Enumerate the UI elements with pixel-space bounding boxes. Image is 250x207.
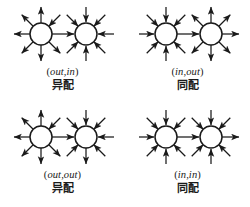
second-direction: in: [67, 66, 75, 77]
first-direction: out: [50, 66, 64, 77]
panel-out-out: (out,out) 异配: [0, 103, 125, 206]
panel-out-in-diagram: [0, 0, 125, 70]
paren-close: ): [75, 66, 79, 77]
assortativity-figure: (out,in) 异配: [0, 0, 250, 207]
second-direction: in: [189, 169, 197, 180]
panel-in-out-cn-label: 同配: [125, 80, 250, 92]
second-direction: out: [64, 169, 78, 180]
panel-in-in-diagram: [125, 103, 250, 173]
panel-out-out-pair-label: (out,out): [0, 169, 125, 181]
paren-close: ): [78, 169, 82, 180]
panel-in-out-diagram: [125, 0, 250, 70]
panel-out-in-pair-label: (out,in): [0, 66, 125, 78]
first-direction: in: [178, 169, 186, 180]
panel-in-out: (in,out) 同配: [125, 0, 250, 103]
panel-in-in-caption: (in,in) 同配: [125, 169, 250, 195]
panel-in-in-cn-label: 同配: [125, 183, 250, 195]
panel-out-out-cn-label: 异配: [0, 183, 125, 195]
panel-in-out-pair-label: (in,out): [125, 66, 250, 78]
first-direction: out: [47, 169, 61, 180]
panel-out-in-cn-label: 异配: [0, 80, 125, 92]
panel-out-in: (out,in) 异配: [0, 0, 125, 103]
paren-close: ): [197, 169, 201, 180]
panel-in-out-caption: (in,out) 同配: [125, 66, 250, 92]
panel-in-in: (in,in) 同配: [125, 103, 250, 206]
panel-out-out-caption: (out,out) 异配: [0, 169, 125, 195]
panel-out-in-caption: (out,in) 异配: [0, 66, 125, 92]
panel-in-in-pair-label: (in,in): [125, 169, 250, 181]
second-direction: out: [186, 66, 200, 77]
paren-close: ): [200, 66, 204, 77]
panel-out-out-diagram: [0, 103, 125, 173]
